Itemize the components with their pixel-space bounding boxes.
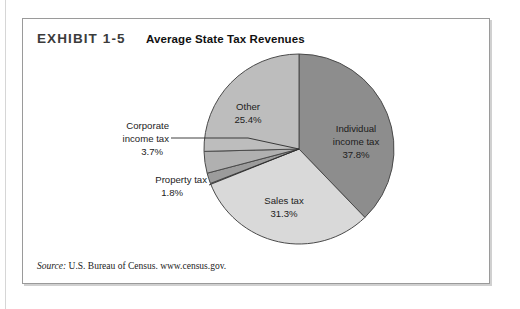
source-label: Source: (37, 261, 66, 271)
pie-label-other-value: 25.4% (234, 114, 262, 125)
exhibit-panel: EXHIBIT 1-5 Average State Tax Revenues O… (22, 18, 490, 284)
pie-label-sales-tax-value: 31.3% (270, 208, 298, 219)
pie-callout-corporate-income-tax-name2: income tax (123, 133, 170, 144)
pie-callout-corporate-income-tax: Corporate income tax 3.7% (123, 120, 170, 157)
pie-label-other-name: Other (236, 101, 261, 112)
pie-label-individual-income-tax-name1: Individual (336, 123, 377, 134)
pie-callout-property-tax: Property tax 1.8% (155, 174, 207, 198)
pie-callout-property-tax-name: Property tax (155, 174, 207, 185)
pie-callout-property-tax-value: 1.8% (161, 187, 183, 198)
pie-label-individual-income-tax-value: 37.8% (342, 149, 370, 160)
source-note: Source: U.S. Bureau of Census. www.censu… (37, 261, 226, 271)
pie-callout-corporate-income-tax-value: 3.7% (141, 146, 163, 157)
pie-chart: Other 25.4% Individual income tax 37.8% … (23, 19, 491, 285)
pie-label-sales-tax-name: Sales tax (264, 195, 304, 206)
pie-callout-corporate-income-tax-name1: Corporate (126, 120, 169, 131)
page-margin-rule (5, 0, 6, 309)
pie-chart-svg: Other 25.4% Individual income tax 37.8% … (23, 19, 491, 285)
source-text: U.S. Bureau of Census. www.census.gov. (69, 261, 227, 271)
pie-label-individual-income-tax-name2: income tax (333, 136, 380, 147)
